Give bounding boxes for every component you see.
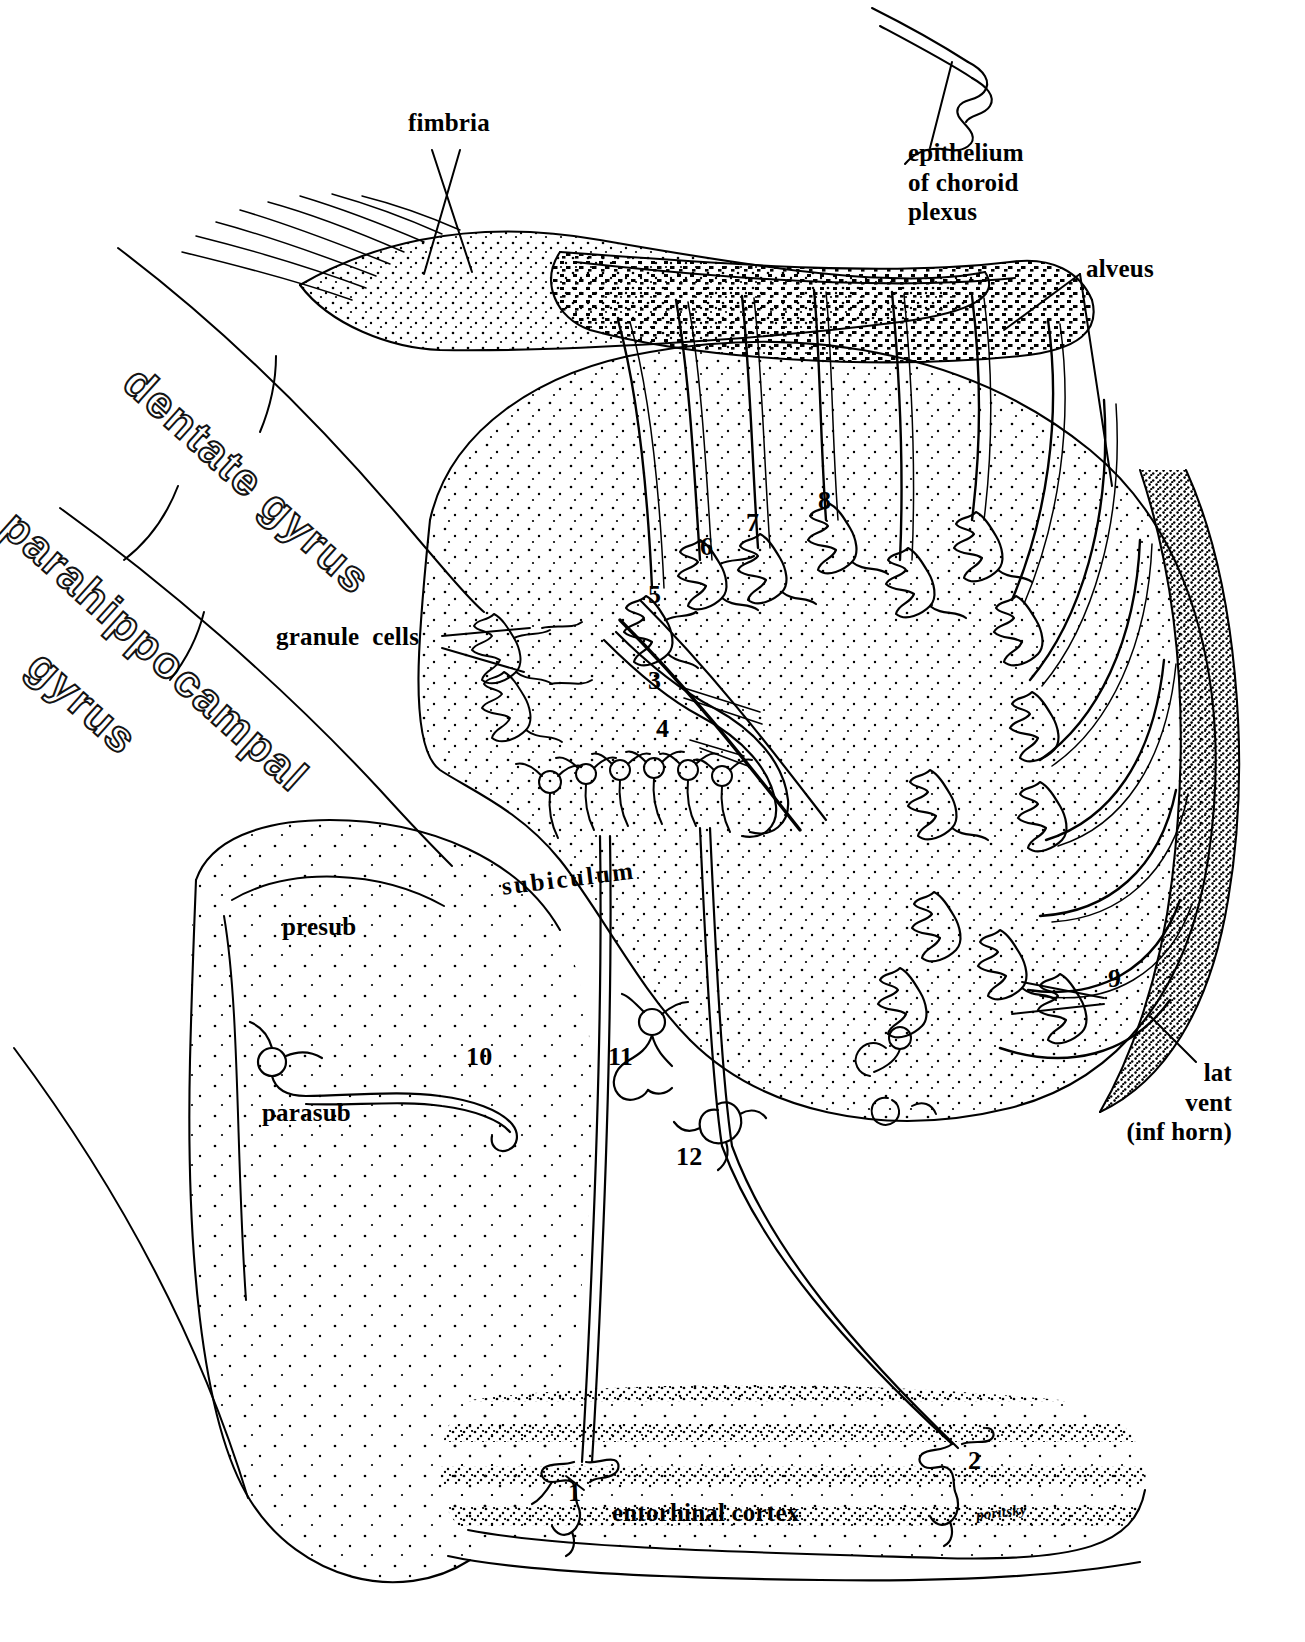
marker-3: 3 <box>648 666 661 697</box>
label-fimbria: fimbria <box>408 108 490 138</box>
entorhinal-pial-line <box>448 1556 1140 1580</box>
marker-7: 7 <box>746 508 759 539</box>
label-lateral-ventricle-inferior-horn: lat vent (inf horn) <box>1000 1058 1232 1147</box>
label-alveus: alveus <box>1086 254 1154 284</box>
hippocampus-figure: fimbria epithelium of choroid plexus alv… <box>0 0 1305 1642</box>
label-granule-cells: granule cells <box>276 622 419 652</box>
marker-11: 11 <box>608 1042 633 1073</box>
marker-12: 12 <box>676 1142 702 1173</box>
entorhinal-cortex-band <box>420 1370 1170 1570</box>
marker-5: 5 <box>648 580 661 611</box>
label-epithelium-of-choroid-plexus: epithelium of choroid plexus <box>908 138 1024 227</box>
anatomical-line-art <box>0 0 1305 1642</box>
label-entorhinal-cortex: entorhinal cortex <box>612 1498 799 1528</box>
marker-1: 1 <box>568 1478 581 1509</box>
label-presub: presub <box>282 912 356 942</box>
label-parasub: parasub <box>262 1098 351 1128</box>
marker-4: 4 <box>656 714 669 745</box>
marker-9: 9 <box>1108 964 1121 995</box>
marker-8: 8 <box>818 486 831 517</box>
marker-6: 6 <box>700 532 713 563</box>
marker-2: 2 <box>968 1446 981 1477</box>
marker-10: 10 <box>466 1042 492 1073</box>
